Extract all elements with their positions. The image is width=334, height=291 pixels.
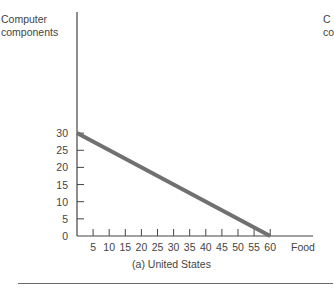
y-tick-label: 10 — [56, 196, 68, 208]
x-tick-label: 50 — [232, 241, 244, 253]
x-tick-label: 40 — [200, 241, 212, 253]
y-tick-label: 5 — [62, 213, 68, 225]
y-tick-label: 20 — [56, 161, 68, 173]
x-tick-label: 10 — [103, 241, 115, 253]
divider — [18, 283, 333, 284]
x-tick-label: 60 — [264, 241, 276, 253]
x-tick-label: 25 — [152, 241, 164, 253]
y-tick-label: 0 — [62, 230, 68, 242]
x-tick-label: 55 — [248, 241, 260, 253]
chart-caption: (a) United States — [0, 258, 333, 270]
x-tick-label: 35 — [184, 241, 196, 253]
ppf-line — [77, 133, 270, 236]
y-tick-label: 25 — [56, 144, 68, 156]
x-tick-label: 45 — [216, 241, 228, 253]
x-tick-label: 20 — [136, 241, 148, 253]
y-tick-label: 30 — [56, 127, 68, 139]
x-tick-label: 5 — [90, 241, 96, 253]
x-tick-label: 30 — [168, 241, 180, 253]
x-tick-label: 15 — [119, 241, 131, 253]
x-axis-label: Food — [291, 241, 315, 253]
y-tick-label: 15 — [56, 179, 68, 191]
